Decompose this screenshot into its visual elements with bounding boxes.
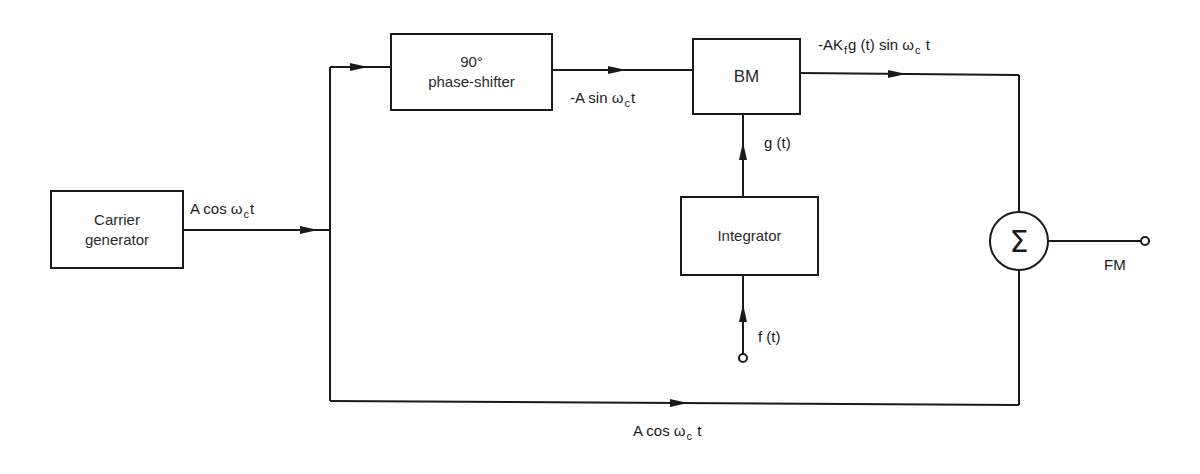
integrator-out-label: g (t) <box>764 134 791 151</box>
phase-shifter-block: 90° phase-shifter <box>390 33 553 111</box>
message-in-label: f (t) <box>758 328 781 345</box>
arrow-g-icon <box>739 142 747 160</box>
arrow-to-phase-shifter-icon <box>350 63 368 71</box>
carrier-generator-block: Carrier generator <box>50 190 184 269</box>
sigma-icon: Σ <box>1010 224 1029 259</box>
arrow-bm-out-icon <box>888 70 906 78</box>
phase-shifter-out-label: -A sin ωct <box>570 89 635 109</box>
arrow-bottom-icon <box>670 399 688 407</box>
arrow-to-bm-icon <box>608 66 626 74</box>
bm-out-label: -AKfg (t) sin ωc t <box>818 36 930 56</box>
summer-block: Σ <box>989 211 1049 271</box>
phase-shifter-line1: 90° <box>460 52 483 72</box>
bm-label: BM <box>734 67 760 87</box>
bottom-path-label: A cos ωc t <box>633 422 701 442</box>
arrow-carrier-icon <box>300 226 318 234</box>
output-terminal-icon <box>1141 237 1149 245</box>
input-terminal-icon <box>739 354 747 362</box>
fm-output-label: FM <box>1104 256 1126 273</box>
balanced-modulator-block: BM <box>692 38 801 115</box>
arrow-f-icon <box>739 304 747 322</box>
integrator-label: Integrator <box>717 226 781 246</box>
carrier-out-label: A cos ωct <box>190 200 254 220</box>
integrator-block: Integrator <box>680 196 819 276</box>
carrier-generator-line1: Carrier <box>94 210 140 230</box>
phase-shifter-line2: phase-shifter <box>428 72 515 92</box>
carrier-generator-line2: generator <box>85 230 149 250</box>
